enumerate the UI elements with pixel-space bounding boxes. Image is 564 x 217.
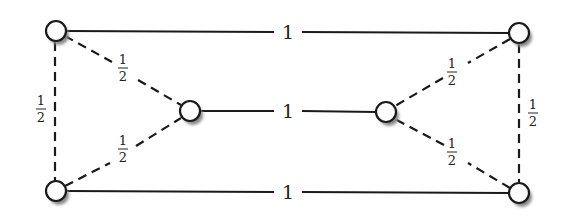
label-middle-weight: 1 bbox=[282, 100, 294, 122]
edge-bl-ml bbox=[136, 118, 181, 146]
edge-tl-ml bbox=[65, 36, 112, 62]
edge-br-mr bbox=[468, 163, 510, 188]
edge-tr-mr bbox=[395, 78, 443, 106]
fraction-left-lower: 1 2 bbox=[118, 133, 128, 165]
edge-top bbox=[302, 32, 509, 33]
edge-tl-ml bbox=[138, 80, 181, 105]
svg-text:2: 2 bbox=[37, 110, 45, 125]
edge-br-mr bbox=[395, 119, 444, 145]
label-bottom-weight: 1 bbox=[282, 181, 294, 203]
svg-text:2: 2 bbox=[119, 150, 127, 165]
edge-top bbox=[66, 31, 274, 32]
svg-text:2: 2 bbox=[119, 69, 127, 84]
label-top-weight: 1 bbox=[282, 21, 294, 43]
svg-text:1: 1 bbox=[448, 56, 456, 71]
svg-text:2: 2 bbox=[448, 73, 456, 88]
edge-bottom bbox=[302, 192, 509, 193]
node-top-left bbox=[46, 21, 66, 41]
fraction-right-lower: 1 2 bbox=[447, 136, 457, 168]
fraction-left-vertical: 1 2 bbox=[36, 93, 46, 125]
node-top-right bbox=[509, 23, 529, 43]
fraction-right-vertical: 1 2 bbox=[528, 97, 538, 129]
svg-text:1: 1 bbox=[37, 93, 45, 108]
svg-text:2: 2 bbox=[529, 114, 537, 129]
svg-text:1: 1 bbox=[529, 97, 537, 112]
fraction-right-upper: 1 2 bbox=[447, 56, 457, 88]
edge-bl-ml bbox=[65, 163, 110, 186]
edge-tr-mr bbox=[468, 39, 510, 63]
svg-text:1: 1 bbox=[119, 52, 127, 67]
node-bottom-right bbox=[509, 183, 529, 203]
edge-bottom bbox=[66, 191, 274, 192]
node-mid-left bbox=[180, 101, 200, 121]
node-mid-right bbox=[376, 102, 396, 122]
fraction-left-upper: 1 2 bbox=[118, 52, 128, 84]
svg-text:2: 2 bbox=[448, 153, 456, 168]
edge-middle bbox=[302, 111, 376, 112]
svg-text:1: 1 bbox=[119, 133, 127, 148]
svg-text:1: 1 bbox=[448, 136, 456, 151]
graph-diagram: 1 1 1 1 2 1 2 1 2 1 2 1 2 1 2 bbox=[0, 0, 564, 217]
node-bottom-left bbox=[46, 181, 66, 201]
